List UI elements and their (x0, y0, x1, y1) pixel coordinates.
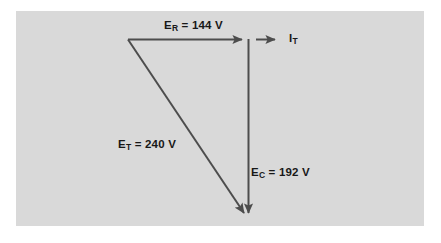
label-er-subscript: R (172, 23, 178, 33)
label-et-subscript: T (126, 142, 131, 152)
label-resistive-voltage: ER = 144 V (164, 20, 223, 32)
label-er-symbol: E (164, 19, 172, 31)
label-ec-symbol: E (251, 166, 259, 178)
label-er-value: = 144 V (178, 19, 223, 31)
label-it-subscript: T (292, 36, 297, 46)
phasor-diagram-figure: ER = 144 V IT ET = 240 V EC = 192 V (0, 0, 441, 243)
label-ec-subscript: C (259, 170, 265, 180)
label-capacitive-voltage: EC = 192 V (251, 167, 310, 179)
label-et-value: = 240 V (131, 138, 176, 150)
vector-et-line (128, 40, 244, 214)
vector-canvas (0, 0, 441, 243)
label-ec-value: = 192 V (265, 166, 310, 178)
label-total-current: IT (289, 33, 298, 45)
label-total-voltage: ET = 240 V (118, 139, 176, 151)
label-et-symbol: E (118, 138, 126, 150)
